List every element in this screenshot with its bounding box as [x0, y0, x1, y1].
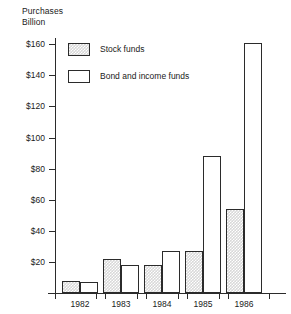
bar-1982-stock-funds [62, 281, 80, 293]
y-axis-tick-label: $40 [31, 227, 45, 236]
x-axis-tick [96, 294, 97, 299]
x-axis-tick [228, 294, 229, 299]
bar-1982-bond-and-income-funds [80, 282, 98, 293]
legend-label-bond-and-income-funds: Bond and income funds [100, 72, 189, 81]
x-axis-tick [55, 294, 56, 299]
axis-title-line-1: Purchases [22, 6, 63, 17]
x-axis-line [48, 293, 286, 294]
bar-1983-bond-and-income-funds [121, 265, 139, 293]
x-axis-tick [187, 294, 188, 299]
bar-1986-bond-and-income-funds [244, 43, 262, 293]
y-axis-tick-label: $80 [31, 165, 45, 174]
chart-legend: Stock funds Bond and income funds [68, 42, 189, 96]
legend-item-bond-and-income-funds: Bond and income funds [68, 69, 189, 83]
bar-1986-stock-funds [226, 209, 244, 293]
legend-swatch-stock-funds-icon [68, 43, 90, 56]
x-axis-tick [105, 294, 106, 299]
bar-1984-bond-and-income-funds [162, 251, 180, 293]
x-axis-label-1985: 1985 [187, 300, 219, 309]
x-axis-label-1984: 1984 [146, 300, 178, 309]
y-axis-tick-label: $100 [26, 134, 45, 143]
x-axis-tick [137, 294, 138, 299]
y-axis-tick-label: $160 [26, 40, 45, 49]
x-axis-tick [219, 294, 220, 299]
y-axis-tick-label: $20 [31, 258, 45, 267]
legend-item-stock-funds: Stock funds [68, 42, 189, 56]
x-axis-tick [269, 294, 270, 299]
x-axis-tick [178, 294, 179, 299]
bar-1985-bond-and-income-funds [203, 156, 221, 293]
legend-label-stock-funds: Stock funds [100, 45, 144, 54]
bar-1983-stock-funds [103, 259, 121, 293]
bar-1985-stock-funds [185, 251, 203, 293]
y-axis-tick-label: $60 [31, 196, 45, 205]
axis-title-line-2: Billion [22, 17, 63, 28]
bar-1984-stock-funds [144, 265, 162, 293]
x-axis-label-1982: 1982 [64, 300, 96, 309]
x-axis-tick [146, 294, 147, 299]
x-axis-label-1986: 1986 [228, 300, 260, 309]
bar-chart-figure: Purchases Billion $20$40$60$80$100$120$1… [0, 0, 291, 314]
legend-swatch-bond-and-income-funds-icon [68, 70, 90, 83]
x-axis-label-1983: 1983 [105, 300, 137, 309]
y-axis-tick-label: $140 [26, 71, 45, 80]
y-axis-tick-label: $120 [26, 102, 45, 111]
chart-axis-title: Purchases Billion [22, 6, 63, 27]
